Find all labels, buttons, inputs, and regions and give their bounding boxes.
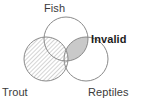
set-label-trout: Trout: [2, 86, 28, 98]
annotation-label-invalid: Invalid: [91, 33, 127, 45]
set-label-reptiles: Reptiles: [88, 86, 129, 98]
venn-diagram-figure: Fish Trout Reptiles Invalid: [0, 0, 141, 101]
set-label-fish: Fish: [44, 2, 65, 14]
